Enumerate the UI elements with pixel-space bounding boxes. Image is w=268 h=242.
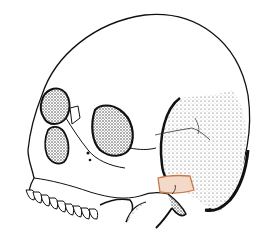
nasal-cavity: [45, 127, 68, 164]
teeth: [26, 190, 98, 219]
skull-illustration: [0, 0, 268, 242]
orbit-far: [41, 88, 70, 124]
orbit-near: [92, 106, 132, 156]
highlighted-region: [158, 176, 194, 193]
face-outline: [28, 95, 42, 198]
